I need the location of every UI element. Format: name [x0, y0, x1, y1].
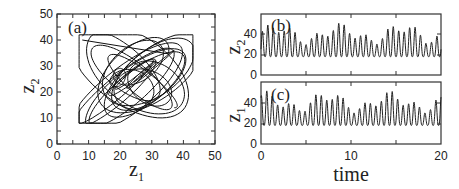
- y-tick: 50: [40, 7, 54, 21]
- trajectory-line: [79, 35, 193, 123]
- y-tick: 20: [244, 47, 258, 61]
- panel-label: (b): [271, 16, 291, 35]
- y-tick: 40: [40, 33, 54, 47]
- y-tick: 40: [244, 27, 258, 41]
- y-tick: 20: [244, 116, 258, 130]
- panel-label: (c): [271, 85, 290, 104]
- y-tick: 0: [250, 68, 257, 82]
- x-axis-label: z1: [129, 158, 144, 184]
- x-tick: 0: [54, 149, 61, 163]
- x-tick: 30: [145, 149, 159, 163]
- panel-c: 0 20 40 0 10 20 (c) time z1: [222, 82, 448, 185]
- y-tick: 10: [40, 111, 54, 125]
- figure: 0 10 20 30 40 50 0 10 20 30 40 50 (a) z1…: [0, 0, 459, 189]
- y-axis-label: z2: [16, 79, 42, 94]
- x-tick: 50: [208, 149, 222, 163]
- panel-a: 0 10 20 30 40 50 0 10 20 30 40 50 (a) z1…: [16, 7, 222, 184]
- x-tick: 20: [434, 149, 448, 163]
- panel-b: 0 20 40 (b) z2: [222, 14, 441, 82]
- x-tick: 0: [258, 149, 265, 163]
- y-tick: 20: [40, 85, 54, 99]
- y-tick: 30: [40, 59, 54, 73]
- y-tick: 0: [250, 137, 257, 151]
- x-tick: 10: [344, 149, 358, 163]
- x-axis-label: time: [333, 163, 369, 185]
- x-tick: 40: [176, 149, 190, 163]
- y-tick: 0: [46, 137, 53, 151]
- x-tick: 20: [113, 149, 127, 163]
- panel-label: (a): [68, 18, 87, 37]
- x-tick: 10: [82, 149, 96, 163]
